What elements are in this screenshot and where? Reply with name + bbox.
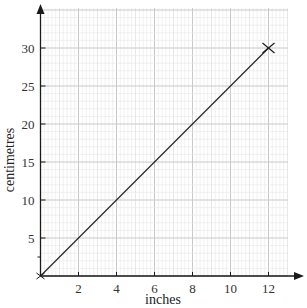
- y-tick-label: 25: [22, 79, 35, 94]
- x-tick-label: 10: [224, 281, 237, 296]
- y-tick-label: 5: [28, 231, 35, 246]
- conversion-chart: 2468101251015202530 inches centimetres: [0, 0, 307, 308]
- y-tick-label: 30: [22, 41, 35, 56]
- y-tick-label: 20: [22, 117, 35, 132]
- axes: [37, 4, 305, 280]
- graph-paper-grid: [41, 8, 289, 276]
- y-tick-label: 10: [22, 193, 35, 208]
- x-axis-title: inches: [145, 292, 181, 307]
- x-tick-label: 4: [113, 281, 120, 296]
- y-tick-label: 15: [22, 155, 35, 170]
- x-tick-label: 2: [75, 281, 82, 296]
- x-tick-label: 12: [262, 281, 275, 296]
- x-tick-label: 8: [189, 281, 196, 296]
- y-axis-title: centimetres: [2, 128, 17, 193]
